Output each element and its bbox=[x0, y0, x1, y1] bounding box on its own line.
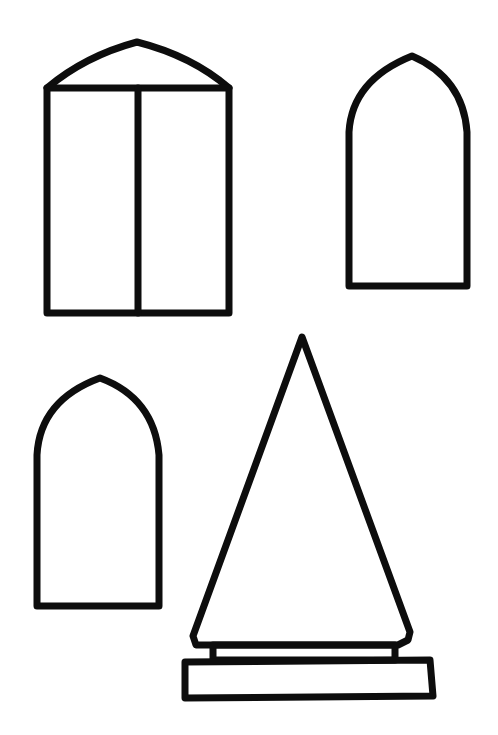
background bbox=[0, 0, 498, 735]
drawing-canvas bbox=[0, 0, 498, 735]
